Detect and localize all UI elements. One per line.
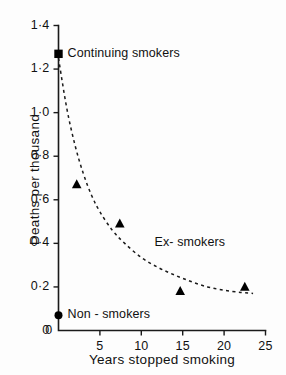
x-tick-label: 15 — [163, 339, 203, 353]
y-tick-label: 0·4 — [0, 235, 50, 249]
y-tick-label: 0·2 — [0, 279, 50, 293]
fit-curve-dashed — [59, 58, 254, 293]
data-markers — [54, 50, 249, 320]
annotation-continuing-smokers: Continuing smokers — [68, 46, 180, 60]
y-tick-label: 1·0 — [0, 105, 50, 119]
marker-triangle-ex-smokers — [240, 282, 250, 291]
x-tick-label: 0 — [29, 323, 53, 337]
x-tick-label: 25 — [246, 339, 286, 353]
x-axis-title: Years stopped smoking — [58, 352, 266, 367]
y-tick-label: 0·8 — [0, 148, 50, 162]
x-tick-label: 10 — [121, 339, 161, 353]
marker-square-continuing-smokers — [54, 50, 62, 58]
y-tick-label: 0·6 — [0, 192, 50, 206]
marker-triangle-ex-smokers — [115, 219, 125, 228]
y-axis-title: Deaths per thousand — [27, 85, 42, 275]
x-tick-label: 20 — [204, 339, 244, 353]
y-tick-label: 1·2 — [0, 61, 50, 75]
axes — [59, 26, 266, 331]
annotation-non-smokers: Non - smokers — [68, 307, 151, 321]
x-tick-label: 5 — [80, 339, 120, 353]
marker-circle-non-smokers — [55, 311, 63, 319]
ex-smokers-trend-line — [59, 58, 254, 293]
marker-triangle-ex-smokers — [72, 179, 82, 188]
deaths-per-thousand-scatter-chart: 00·20·40·60·81·01·21·4 0510152025 Contin… — [0, 0, 286, 375]
annotation-ex-smokers: Ex- smokers — [155, 235, 226, 249]
y-tick-label: 1·4 — [0, 18, 50, 32]
marker-triangle-ex-smokers — [175, 286, 185, 295]
axis-frame — [59, 26, 266, 331]
